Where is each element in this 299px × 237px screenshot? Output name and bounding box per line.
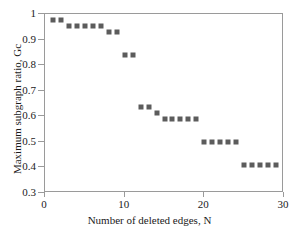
- y-axis-tick: [38, 13, 44, 14]
- scatter-points-layer: [45, 14, 282, 191]
- chart-figure: 0.30.40.50.60.70.80.91 0102030 Number of…: [0, 0, 299, 237]
- data-point: [250, 163, 255, 168]
- data-point: [178, 116, 183, 121]
- data-point: [138, 105, 143, 110]
- data-point: [258, 163, 263, 168]
- data-point: [170, 116, 175, 121]
- y-axis-tick-label: 0.4: [22, 160, 36, 172]
- data-point: [130, 52, 135, 57]
- plot-area: [44, 13, 283, 192]
- data-point: [194, 116, 199, 121]
- x-axis-tick-label: 0: [41, 198, 47, 210]
- y-axis-tick: [38, 39, 44, 40]
- data-point: [186, 116, 191, 121]
- data-point: [162, 116, 167, 121]
- x-axis-tick: [44, 192, 45, 197]
- y-axis-tick: [38, 90, 44, 91]
- x-axis-title: Number of deleted edges, N: [0, 214, 299, 226]
- y-axis-tick-label: 1: [31, 7, 37, 19]
- data-point: [58, 18, 63, 23]
- x-axis-tick-label: 20: [198, 198, 209, 210]
- data-point: [210, 139, 215, 144]
- y-axis-tick-label: 0.5: [22, 135, 36, 147]
- data-point: [74, 24, 79, 29]
- data-point: [90, 24, 95, 29]
- data-point: [234, 139, 239, 144]
- data-point: [202, 139, 207, 144]
- y-axis-tick: [38, 166, 44, 167]
- data-point: [106, 29, 111, 34]
- data-point: [226, 139, 231, 144]
- data-point: [114, 29, 119, 34]
- y-axis-tick: [38, 64, 44, 65]
- y-axis-title: Maximum subgraph ratio, Gc: [11, 24, 23, 194]
- data-point: [98, 24, 103, 29]
- data-point: [242, 163, 247, 168]
- data-point: [122, 52, 127, 57]
- y-axis-tick: [38, 115, 44, 116]
- x-axis-tick: [124, 192, 125, 197]
- data-point: [266, 163, 271, 168]
- x-axis-tick: [283, 192, 284, 197]
- data-point: [274, 163, 279, 168]
- data-point: [82, 24, 87, 29]
- x-axis-tick: [203, 192, 204, 197]
- data-point: [218, 139, 223, 144]
- y-axis-tick-label: 0.8: [22, 58, 36, 70]
- y-axis-tick: [38, 141, 44, 142]
- y-axis-tick-label: 0.7: [22, 84, 36, 96]
- y-axis-tick-label: 0.6: [22, 109, 36, 121]
- y-axis-tick-label: 0.3: [22, 186, 36, 198]
- data-point: [146, 105, 151, 110]
- x-axis-tick-label: 10: [118, 198, 129, 210]
- y-axis-tick-label: 0.9: [22, 33, 36, 45]
- data-point: [154, 110, 159, 115]
- data-point: [50, 18, 55, 23]
- x-axis-tick-label: 30: [278, 198, 289, 210]
- data-point: [66, 24, 71, 29]
